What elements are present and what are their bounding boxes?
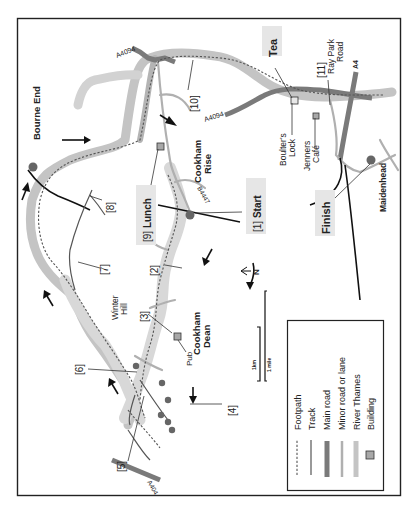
cookham-rise-label-2: Rise <box>202 154 213 174</box>
waypoint-5-label: [5] <box>116 461 127 472</box>
legend-main-road-label: Main road <box>322 390 332 430</box>
tea-label: Tea <box>267 38 279 57</box>
waypoint-3-label: [3] <box>139 311 150 322</box>
legend-building-label: Building <box>366 398 376 430</box>
legend-footpath-label: Footpath <box>293 394 303 430</box>
scale-mile-label: 1 mile <box>266 358 272 372</box>
walk-map: Bourne End A4094 A4094 B4447 A4 A404 Coo… <box>0 0 415 513</box>
waypoint-4-label: [4] <box>227 405 238 416</box>
finish-label: Finish <box>320 201 332 234</box>
pub-building <box>174 333 181 340</box>
maidenhead-dot <box>367 156 376 165</box>
legend-minor-road-label: Minor road or lane <box>337 357 347 430</box>
waypoint-2-label: [2] <box>149 265 160 276</box>
jenners-cafe-label-2: Café <box>311 145 321 163</box>
waypoint-1-label: [1] Start <box>252 195 263 232</box>
bourne-end-dot <box>29 163 38 172</box>
start-dot <box>186 211 195 220</box>
waypoint-9-label: [9] Lunch <box>142 198 153 242</box>
waypoint-6-label: [6] <box>74 364 85 375</box>
legend-track-label: Track <box>307 407 317 430</box>
bourne-end-label: Bourne End <box>31 86 42 140</box>
waypoint-11-label: [11] <box>316 62 327 78</box>
jenners-cafe-building <box>313 113 319 119</box>
legend-river-label: River Thames <box>352 374 362 430</box>
pub-label: Pub <box>185 351 194 366</box>
cookham-dean-label-2: Dean <box>201 325 212 348</box>
waypoint-10-label: [10] <box>189 95 200 112</box>
north-label: N <box>252 269 261 275</box>
scale-km-label: 1km <box>251 359 257 370</box>
maidenhead-label: Maidenhead <box>378 163 388 212</box>
boulters-lock-building <box>291 97 298 104</box>
legend: Footpath Track Main road Minor road or l… <box>288 321 384 491</box>
waypoint-8-label: [8] <box>105 202 116 213</box>
lunch-building <box>157 143 164 150</box>
waypoint-7-label: [7] <box>99 264 110 275</box>
boulters-lock-label-2: Lock <box>287 138 297 157</box>
road-a4-label: A4 <box>352 60 359 69</box>
legend-building-swatch <box>366 451 374 459</box>
ray-park-road-label-2: Road <box>335 41 345 62</box>
winter-hill-label-2: Hill <box>119 303 129 315</box>
